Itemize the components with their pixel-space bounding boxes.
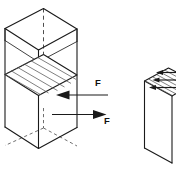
block-right: [145, 68, 177, 163]
shear-plane-face: [5, 55, 77, 96]
block-left-top-rim: [5, 9, 77, 63]
block-right-shear-arrows: [149, 70, 176, 90]
shear-plane: [5, 55, 77, 96]
diagram-canvas: Shear force on a rectangular block: [0, 0, 176, 174]
force-label-lower: F: [104, 115, 110, 126]
block-left: [5, 9, 77, 149]
bottom-face-front-edges: [5, 127, 77, 149]
block-right-bottom-edge: [145, 148, 173, 163]
force-arrow-upper-head: [56, 91, 70, 100]
block-left-bottom-face: [5, 127, 77, 149]
shear-force-diagram: Shear force on a rectangular block: [0, 0, 176, 174]
top-face-outline: [5, 9, 77, 51]
force-label-upper: F: [95, 77, 101, 88]
force-annotations: F F: [52, 77, 110, 126]
force-arrow-lower: F: [52, 110, 110, 126]
